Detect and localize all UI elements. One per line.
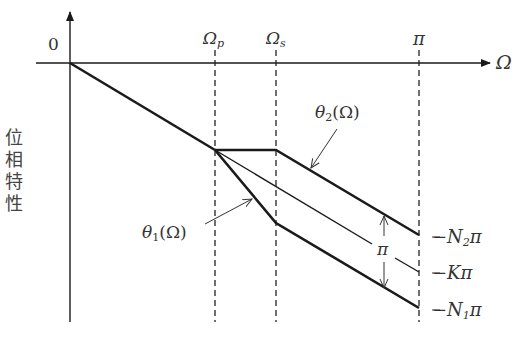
k-pi-label: −Kπ (432, 262, 472, 283)
theta1-label: θ1(Ω) (142, 222, 187, 244)
x-axis-label: Ω (496, 51, 512, 73)
origin-label: 0 (48, 34, 59, 54)
y-axis-label: 位 相 特 性 (4, 127, 24, 215)
k-pi-line-a (215, 150, 372, 244)
k-pi-line-b (395, 258, 419, 272)
omega-s-label: Ωs (266, 28, 286, 50)
diagram-canvas (0, 0, 518, 342)
gap-pi-label: π (377, 239, 388, 259)
omega-p-label: Ωp (203, 28, 224, 50)
theta2-label: θ2(Ω) (315, 102, 360, 124)
n2-pi-label: −N2π (432, 226, 482, 249)
n1-pi-label: −N1π (432, 299, 482, 322)
linear-phase-segment (70, 63, 215, 150)
pi-tick-label: π (413, 28, 425, 49)
theta1-callout-arrow (205, 199, 252, 224)
theta2-callout-arrow (311, 129, 337, 168)
phase-characteristic-diagram: 0 Ω Ωp Ωs π 位 相 特 性 θ2(Ω) θ1(Ω) π −N2π −… (0, 0, 518, 342)
theta2-curve (215, 150, 419, 235)
